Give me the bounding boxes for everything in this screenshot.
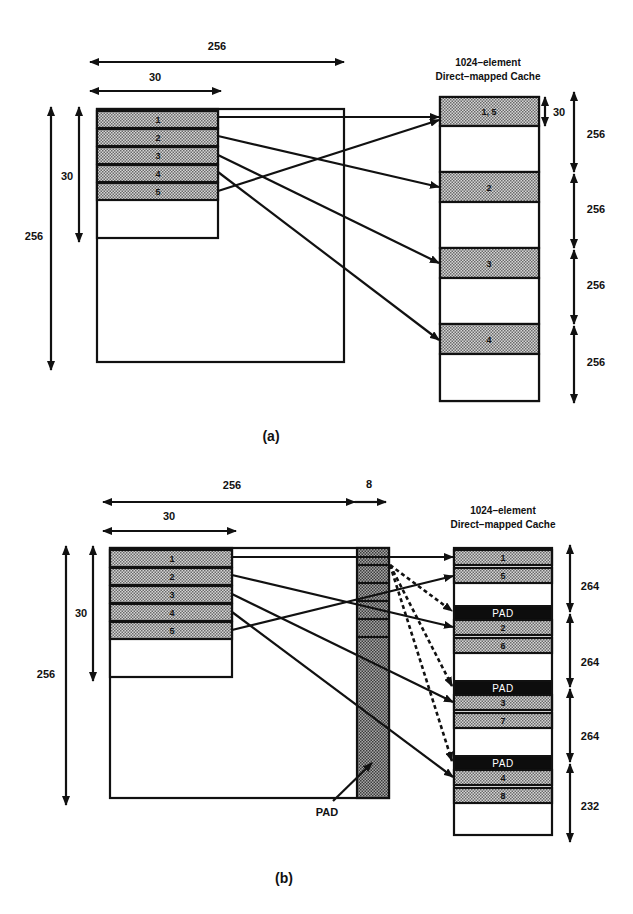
cache-b-title-line2: Direct–mapped Cache [450,519,555,530]
cache-b-seg-3: 264 [581,730,600,742]
cache-b-seg-4: 232 [581,800,599,812]
cache-a-seg-2: 256 [587,203,605,215]
dimension-array-height-b: 256 [37,546,66,805]
array-b-row-5: 5 [169,626,174,636]
cache-b-slot-13: 4 [500,773,505,783]
figure-b: 256 8 30 256 30 1 2 3 4 5 [37,478,600,886]
cache-a-segment-dims: 256 256 256 256 [574,92,605,403]
cache-b-pad-1: PAD [492,608,513,619]
pad-column-label: PAD [316,806,338,818]
block-b-width-label: 30 [163,510,175,522]
array-b-rows: 1 2 3 4 5 [110,550,232,639]
dimension-block-height-b: 30 [75,546,93,681]
figure-a: 256 30 256 30 1 2 3 4 [25,40,605,444]
array-a-row-3: 3 [155,151,160,161]
array-a-row-5: 5 [155,187,160,197]
caption-b: (b) [275,870,293,886]
cache-b-pad-2: PAD [492,683,513,694]
cache-b-slot-14: 8 [500,791,505,801]
cache-b-slot-5: 2 [500,623,505,633]
dimension-block-width-b: 30 [103,510,236,531]
array-b-width-label: 256 [223,479,241,491]
dimension-block-height: 30 [61,107,79,242]
cache-b-slot-2: 5 [500,571,505,581]
block-width-label: 30 [149,71,161,83]
cache-a-slot-5: 3 [486,259,491,269]
cache-b: 1 5 PAD 2 6 PAD 3 7 PAD 4 8 [454,548,552,835]
dimension-array-width: 256 [90,40,344,62]
cache-b-segment-dims: 264 264 264 232 [570,545,600,842]
cache-b-pad-3: PAD [492,758,513,769]
cache-b-slot-9: 3 [500,698,505,708]
cache-a-seg-3: 256 [587,279,605,291]
cache-b-slot-6: 6 [500,641,505,651]
cache-a-seg-4: 256 [587,356,605,368]
array-a-row-4: 4 [155,169,160,179]
block-b-height-label: 30 [75,607,87,619]
cache-mapping-diagram: 256 30 256 30 1 2 3 4 [0,0,633,914]
cache-a-slot-1: 1, 5 [481,107,496,117]
dimension-array-height: 256 [25,107,51,370]
cache-a-slot-3: 2 [486,183,491,193]
cache-b-seg-1: 264 [581,580,600,592]
array-a-row-1: 1 [155,115,160,125]
array-b-row-2: 2 [169,572,174,582]
cache-b-slot-1: 1 [500,553,505,563]
cache-b-seg-2: 264 [581,656,600,668]
cache-a: 1, 5 2 3 4 [440,97,539,401]
cache-a-row-height-label: 30 [553,106,565,118]
cache-b-title-line1: 1024–element [470,505,536,516]
pad-width-label: 8 [366,478,372,490]
array-b-height-label: 256 [37,668,55,680]
cache-a-title-line2: Direct–mapped Cache [435,71,540,82]
cache-a-slot-7: 4 [486,335,491,345]
cache-b-slot-10: 7 [500,716,505,726]
dimension-block-width: 30 [90,71,221,91]
array-a-rows: 1 2 3 4 5 [97,111,218,200]
array-b-row-1: 1 [169,554,174,564]
array-b-row-4: 4 [169,608,174,618]
caption-a: (a) [262,428,279,444]
block-height-label: 30 [61,170,73,182]
cache-a-title-line1: 1024–element [455,57,521,68]
array-height-label: 256 [25,230,43,242]
array-width-label: 256 [208,40,226,52]
dimension-array-width-b: 256 8 [103,478,386,502]
pad-mapping-arrows [390,565,452,761]
array-b-row-3: 3 [169,590,174,600]
cache-a-seg-1: 256 [587,128,605,140]
array-a-row-2: 2 [155,133,160,143]
